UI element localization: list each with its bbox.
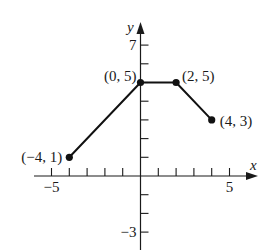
x-axis-label: x xyxy=(249,157,257,173)
data-point xyxy=(208,116,215,123)
point-label: (4, 3) xyxy=(220,113,253,130)
point-labels: (−4, 1)(0, 5)(2, 5)(4, 3) xyxy=(21,68,252,167)
function-graph: xy −557−3 (−4, 1)(0, 5)(2, 5)(4, 3) xyxy=(0,0,276,250)
x-tick-label: −5 xyxy=(44,179,60,195)
point-label: (2, 5) xyxy=(182,68,215,85)
point-label: (0, 5) xyxy=(104,68,137,85)
y-axis-label: y xyxy=(125,19,134,35)
data-point xyxy=(137,79,144,86)
axes: xy xyxy=(34,19,258,250)
x-axis-arrow-icon xyxy=(246,172,258,180)
y-tick-label: 7 xyxy=(129,37,137,53)
x-tick-label: 5 xyxy=(226,179,234,195)
y-tick-label: −3 xyxy=(121,224,137,240)
data-point xyxy=(173,79,180,86)
y-axis-arrow-icon xyxy=(137,22,145,34)
point-label: (−4, 1) xyxy=(21,149,62,166)
data-point xyxy=(66,154,73,161)
